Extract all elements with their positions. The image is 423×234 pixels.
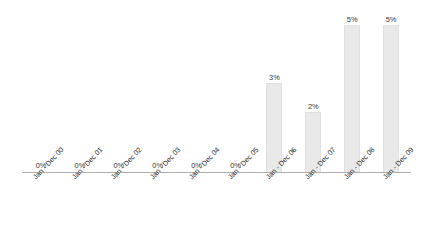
- bar-slot: 0%: [22, 8, 60, 172]
- bar[interactable]: [344, 25, 360, 172]
- bar-value-label: 2%: [308, 102, 319, 111]
- bar-value-label: 5%: [347, 15, 358, 24]
- bar-value-label: 3%: [269, 73, 280, 82]
- bar-chart: Total Meat Sales in Total Income (%) 0%0…: [0, 0, 423, 234]
- bar-value-label: 5%: [386, 15, 397, 24]
- bar[interactable]: [383, 25, 399, 172]
